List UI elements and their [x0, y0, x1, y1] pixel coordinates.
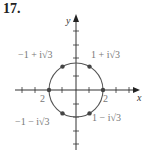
point-1-plus-i-root3	[87, 64, 91, 68]
tick-label-neg2: 2	[40, 93, 45, 104]
label-neg1-minus-i-root3: −1 − i√3	[15, 116, 50, 127]
x-axis-label: x	[136, 92, 142, 103]
label-1-minus-i-root3: 1 − i√3	[92, 112, 121, 123]
point-neg1-plus-i-root3	[60, 64, 64, 68]
point-neg2	[47, 88, 51, 92]
label-1-plus-i-root3: 1 + i√3	[91, 49, 120, 60]
complex-plane-diagram: x y 1 + i√3 −1 + i√3 −1 − i√3 1 − i√3 2 …	[0, 0, 146, 152]
y-axis-arrow-icon	[73, 14, 79, 22]
y-axis	[73, 14, 79, 150]
x-axis	[15, 87, 140, 93]
label-neg1-plus-i-root3: −1 + i√3	[18, 49, 53, 60]
y-axis-label: y	[65, 15, 71, 26]
tick-label-pos2: 2	[103, 93, 108, 104]
point-neg1-minus-i-root3	[60, 111, 64, 115]
point-2	[101, 88, 105, 92]
